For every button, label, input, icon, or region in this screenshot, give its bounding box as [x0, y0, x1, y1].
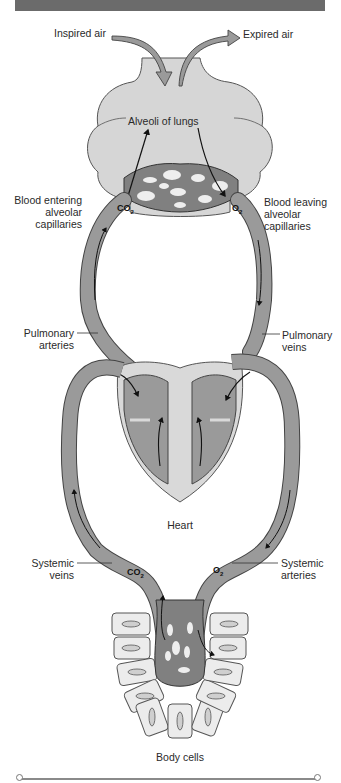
o2-body-label: O2 [213, 565, 223, 577]
alveoli-label: Alveoli of lungs [128, 115, 199, 127]
systemic-arteries-label: Systemic arteries [281, 557, 324, 581]
blood-leaving-label: Blood leaving alveolar capillaries [264, 196, 327, 232]
co2-lungs-label: CO2 [117, 203, 134, 215]
systemic-veins-label: Systemic veins [22, 557, 74, 581]
heart-label: Heart [160, 519, 200, 531]
footer-rule-right-cap [314, 774, 321, 781]
alveolar-capillary-network [124, 164, 238, 212]
pulmonary-arteries-label: Pulmonary arteries [20, 327, 74, 351]
body-cells-label: Body cells [140, 751, 220, 763]
pulmonary-veins-label: Pulmonary veins [282, 329, 332, 353]
expired-air-label: Expired air [243, 28, 293, 40]
o2-lungs-label: O2 [232, 203, 242, 215]
heart [117, 362, 242, 502]
footer-rule [19, 778, 318, 780]
tissue-capillary-bed [155, 600, 205, 686]
co2-body-label: CO2 [127, 567, 144, 579]
inspired-air-label: Inspired air [54, 27, 106, 39]
footer-rule-left-cap [16, 774, 23, 781]
blood-entering-label: Blood entering alveolar capillaries [10, 194, 82, 230]
